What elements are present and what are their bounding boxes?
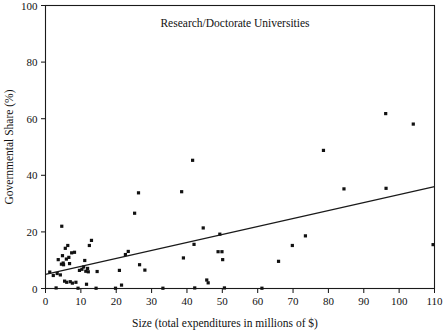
data-point (205, 278, 208, 281)
data-point (291, 244, 294, 247)
x-axis-tick-labels: 0102030405060708090100110 (43, 295, 443, 307)
y-axis-tick-marks (41, 6, 46, 289)
x-tick-label-40: 40 (181, 295, 193, 307)
data-point (73, 251, 76, 254)
x-axis-title: Size (total expenditures in millions of … (132, 317, 318, 330)
data-point (143, 269, 146, 272)
data-point (207, 281, 210, 284)
data-point (62, 263, 65, 266)
data-point (304, 234, 307, 237)
data-point (61, 254, 64, 257)
chart-title: Research/Doctorate Universities (160, 17, 310, 29)
data-point (68, 262, 71, 265)
data-point (193, 286, 196, 289)
data-point (277, 260, 280, 263)
data-point (76, 287, 79, 290)
data-point (83, 259, 86, 262)
data-point-markers (48, 112, 435, 290)
data-point (57, 258, 60, 261)
data-point (216, 250, 219, 253)
data-point (67, 256, 70, 259)
x-axis-tick-marks (46, 289, 435, 294)
x-tick-label-100: 100 (391, 295, 408, 307)
data-point (127, 250, 130, 253)
data-point (74, 281, 77, 284)
data-point (65, 281, 68, 284)
x-tick-label-90: 90 (358, 295, 370, 307)
x-tick-label-30: 30 (146, 295, 158, 307)
y-tick-label-100: 100 (21, 0, 38, 12)
x-tick-label-0: 0 (43, 295, 49, 307)
chart-canvas: 0102030405060708090100110 020406080100 R… (0, 0, 447, 333)
data-point (161, 287, 164, 290)
scatter-chart-figure: 0102030405060708090100110 020406080100 R… (0, 0, 447, 333)
data-point (180, 190, 183, 193)
data-point (86, 267, 89, 270)
y-tick-label-60: 60 (27, 113, 39, 125)
data-point (64, 247, 67, 250)
data-point (59, 273, 62, 276)
data-point (137, 191, 140, 194)
data-point (133, 212, 136, 215)
data-point (342, 187, 345, 190)
data-point (88, 244, 91, 247)
data-point (431, 243, 434, 246)
x-tick-label-10: 10 (75, 295, 87, 307)
data-point (87, 270, 90, 273)
y-axis-title: Governmental Share (%) (3, 89, 16, 204)
x-tick-label-60: 60 (252, 295, 264, 307)
data-point (182, 256, 185, 259)
y-tick-label-40: 40 (27, 169, 39, 181)
x-tick-label-110: 110 (426, 295, 443, 307)
regression-fit-line (46, 187, 435, 275)
data-point (384, 187, 387, 190)
data-point (71, 282, 74, 285)
data-point (221, 258, 224, 261)
x-tick-label-70: 70 (288, 295, 300, 307)
data-point (322, 149, 325, 152)
data-point (70, 251, 73, 254)
data-point (94, 287, 97, 290)
data-point (90, 239, 93, 242)
data-point (66, 244, 69, 247)
data-point (120, 284, 123, 287)
data-point (223, 286, 226, 289)
data-point (85, 283, 88, 286)
data-point (202, 226, 205, 229)
data-point (220, 250, 223, 253)
y-axis-tick-labels: 020406080100 (21, 0, 38, 295)
x-tick-label-50: 50 (217, 295, 229, 307)
data-point (118, 269, 121, 272)
y-tick-label-0: 0 (32, 283, 38, 295)
data-point (52, 274, 55, 277)
data-point (55, 286, 58, 289)
y-tick-label-20: 20 (27, 226, 39, 238)
x-tick-label-20: 20 (111, 295, 123, 307)
data-point (60, 225, 63, 228)
data-point (260, 287, 263, 290)
plot-area-frame (46, 6, 435, 289)
data-point (384, 112, 387, 115)
data-point (96, 270, 99, 273)
data-point (412, 122, 415, 125)
x-tick-label-80: 80 (323, 295, 335, 307)
data-point (191, 159, 194, 162)
data-point (114, 287, 117, 290)
y-tick-label-80: 80 (27, 56, 39, 68)
data-point (192, 243, 195, 246)
data-point (138, 263, 141, 266)
